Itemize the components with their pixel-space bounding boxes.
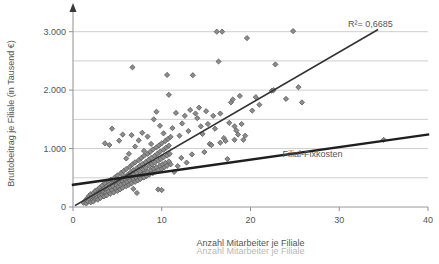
y-axis-title: Bruttobeitrag je Filiale (in Tausend €) xyxy=(6,40,16,186)
chart-canvas: 01.0002.0003.000010203040R²= 0,6685Filia… xyxy=(0,0,439,264)
data-point-marker xyxy=(157,123,162,128)
x-tick-label: 20 xyxy=(245,215,255,225)
data-point-marker xyxy=(145,134,150,139)
data-point-marker xyxy=(220,29,225,34)
data-point-marker xyxy=(218,140,223,145)
data-point-marker xyxy=(186,128,191,133)
data-point-marker xyxy=(129,133,134,138)
r-squared: R²= 0,6685 xyxy=(348,19,393,29)
data-point-marker xyxy=(164,72,169,77)
y-tick-label: 3.000 xyxy=(43,27,66,37)
data-point-marker xyxy=(283,96,288,101)
x-tick-label: 10 xyxy=(157,215,167,225)
data-point-marker xyxy=(273,62,278,67)
data-point-marker xyxy=(175,163,180,168)
data-point-marker xyxy=(257,102,262,107)
data-point-marker xyxy=(177,133,182,138)
fixed-cost-line-label: Filial-Fixkosten xyxy=(283,149,343,159)
data-point-marker xyxy=(190,73,195,78)
data-point-marker xyxy=(180,121,185,126)
data-point-marker xyxy=(109,126,114,131)
data-point-marker xyxy=(250,108,255,113)
data-point-marker xyxy=(136,138,141,143)
data-point-marker xyxy=(140,130,145,135)
data-point-marker xyxy=(131,186,136,191)
data-point-marker xyxy=(149,141,154,146)
data-point-marker xyxy=(291,29,296,34)
x-tick-label: 30 xyxy=(334,215,344,225)
data-point-marker xyxy=(173,110,178,115)
data-point-marker xyxy=(214,29,219,34)
data-point-marker xyxy=(296,85,301,90)
data-point-marker xyxy=(202,149,207,154)
data-point-marker xyxy=(211,113,216,118)
data-point-marker xyxy=(189,152,194,157)
data-point-marker xyxy=(120,132,125,137)
data-point-marker xyxy=(117,138,122,143)
data-point-marker xyxy=(154,109,159,114)
y-tick-label: 2.000 xyxy=(43,85,66,95)
data-point-marker xyxy=(179,155,184,160)
y-tick-label: 0 xyxy=(61,202,66,212)
scatter-chart: 01.0002.0003.000010203040R²= 0,6685Filia… xyxy=(0,0,439,264)
data-point-marker xyxy=(225,156,230,161)
data-point-marker xyxy=(196,105,201,110)
data-point-marker xyxy=(205,121,210,126)
data-point-marker xyxy=(232,137,237,142)
data-point-marker xyxy=(299,100,304,105)
data-point-marker xyxy=(126,151,131,156)
data-point-marker xyxy=(216,59,221,64)
data-point-marker xyxy=(227,120,232,125)
x-axis-title-ghost: Anzahl Mitarbeiter je Filiale xyxy=(196,246,304,256)
data-point-marker xyxy=(198,124,203,129)
data-point-marker xyxy=(134,190,139,195)
data-point-marker xyxy=(204,109,209,114)
data-point-marker xyxy=(237,93,242,98)
data-point-marker xyxy=(161,131,166,136)
data-point-marker xyxy=(239,121,244,126)
data-point-marker xyxy=(182,113,187,118)
x-tick-label: 40 xyxy=(423,215,433,225)
data-point-marker xyxy=(124,156,129,161)
y-tick-label: 1.000 xyxy=(43,144,66,154)
scatter-points-group xyxy=(81,29,386,207)
data-point-marker xyxy=(184,160,189,165)
data-point-marker xyxy=(166,92,171,97)
y-axis-arrow-icon xyxy=(70,3,77,12)
data-point-marker xyxy=(244,36,249,41)
data-point-marker xyxy=(130,65,135,70)
data-point-marker xyxy=(188,107,193,112)
data-point-marker xyxy=(212,126,217,131)
x-tick-label: 0 xyxy=(70,215,75,225)
data-point-marker xyxy=(151,117,156,122)
data-point-marker xyxy=(218,111,223,116)
data-point-marker xyxy=(170,126,175,131)
